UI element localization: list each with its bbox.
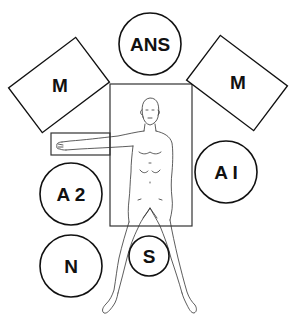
zone-a2: A 2 (40, 163, 102, 225)
zone-m-left-label: M (52, 75, 68, 96)
zone-m-right-label: M (230, 72, 246, 93)
body-board (110, 84, 192, 226)
zone-s-label: S (143, 246, 156, 267)
zone-a1-label: A I (214, 162, 238, 183)
zone-n-label: N (64, 256, 78, 277)
zone-ans-label: ANS (130, 34, 170, 55)
zone-n: N (40, 235, 102, 297)
zone-a1: A I (195, 141, 257, 203)
zone-ans: ANS (119, 13, 181, 75)
zone-s: S (129, 236, 169, 276)
zone-a2-label: A 2 (57, 184, 86, 205)
electrode-placement-diagram: ANS M M A I A 2 N S (0, 0, 292, 326)
